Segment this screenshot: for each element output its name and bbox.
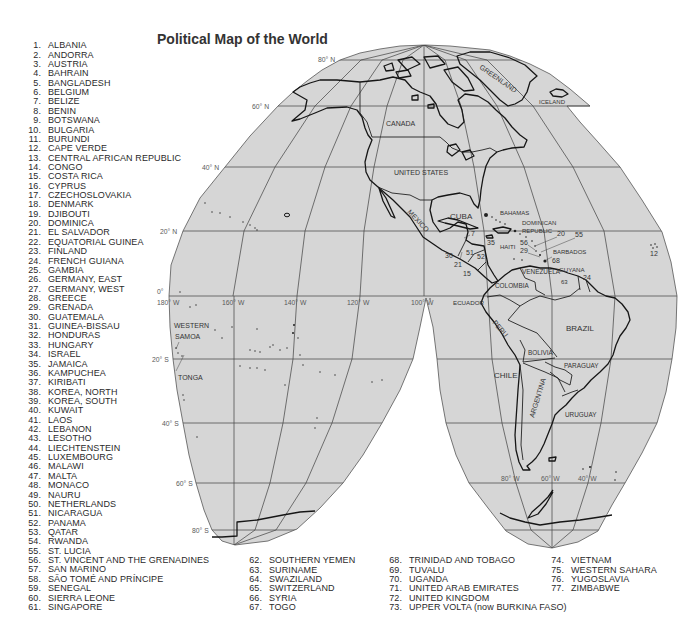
legend-item: 77.ZIMBABWE xyxy=(550,584,657,593)
label-paraguay: PARAGUAY xyxy=(564,362,599,369)
label-dominican-republic-2: REPUBLIC xyxy=(522,228,553,234)
label-number-68: 68 xyxy=(552,257,560,264)
legend-country-name: TOGO xyxy=(269,603,296,612)
label-cuba: CUBA xyxy=(450,212,473,221)
label-number-52: 52 xyxy=(477,253,485,260)
label-chile: CHILE xyxy=(494,371,518,380)
label-number-51: 51 xyxy=(466,249,474,256)
label-number-30: 30 xyxy=(445,252,453,259)
label-colombia: COLOMBIA xyxy=(495,282,529,289)
label-brazil: BRAZIL xyxy=(566,324,595,333)
label-number-7: 7 xyxy=(471,230,475,237)
label-lon-100w: 100° W xyxy=(411,299,434,306)
legend-column-3: 68.TRINIDAD AND TOBAGO69.TUVALU70.UGANDA… xyxy=(388,556,567,612)
label-guyana: GUYANA xyxy=(559,266,586,273)
label-number-20: 20 xyxy=(557,230,565,237)
label-uruguay: URUGUAY xyxy=(565,411,597,418)
label-lon-140w: 140° W xyxy=(284,299,307,306)
label-barbados: BARBADOS xyxy=(553,249,586,255)
legend-item: 67.TOGO xyxy=(248,603,355,612)
legend-country-name: UPPER VOLTA (now BURKINA FASO) xyxy=(409,603,567,612)
legend-number: 67. xyxy=(248,603,262,612)
legend-country-name: SINGAPORE xyxy=(48,603,102,612)
legend-item: 61.SINGAPORE xyxy=(27,603,209,612)
label-canada: CANADA xyxy=(386,120,416,127)
label-number-12: 12 xyxy=(650,250,658,257)
legend-item: 73.UPPER VOLTA (now BURKINA FASO) xyxy=(388,603,567,612)
label-number-63: 63 xyxy=(561,279,568,285)
label-iceland: ICELAND xyxy=(539,99,566,105)
legend-item: 65.SWITZERLAND xyxy=(248,584,355,593)
legend-column-2: 62.SOUTHERN YEMEN63.SURINAME64.SWAZILAND… xyxy=(248,556,355,612)
label-lon-160w: 160° W xyxy=(222,299,245,306)
label-number-56: 56 xyxy=(520,239,528,246)
label-number-15: 15 xyxy=(463,270,471,277)
legend-number: 61. xyxy=(27,603,41,612)
legend-column-4: 74.VIETNAM75.WESTERN SAHARA76.YUGOSLAVIA… xyxy=(550,556,657,593)
label-bolivia: BOLIVIA xyxy=(528,349,554,356)
legend-number: 77. xyxy=(550,584,564,593)
label-lat-80n: 80° N xyxy=(318,56,335,63)
label-dominican-republic-1: DOMINICAN xyxy=(522,220,556,226)
label-haiti: HAITI xyxy=(500,244,516,250)
legend-item: 66.SYRIA xyxy=(248,594,355,603)
label-lon-80w: 80° W xyxy=(501,475,520,482)
label-ecuador: ECUADOR xyxy=(453,299,484,306)
label-number-24: 24 xyxy=(583,274,591,281)
legend-column-1: 1.ALBANIA2.ANDORRA3.AUSTRIA4.BAHRAIN5.BA… xyxy=(27,41,209,612)
label-number-29: 29 xyxy=(520,247,528,254)
label-lat-60n: 60° N xyxy=(252,103,269,110)
legend-number: 73. xyxy=(388,603,402,612)
label-lon-120w: 120° W xyxy=(347,299,370,306)
label-number-55: 55 xyxy=(575,231,583,238)
label-number-21: 21 xyxy=(454,261,462,268)
label-number-35: 35 xyxy=(487,239,495,246)
legend-country-name: ZIMBABWE xyxy=(571,584,620,593)
label-united-states: UNITED STATES xyxy=(394,169,449,176)
map-page: 80° N 60° N 40° N 20° N 0° 20° S 40° S 6… xyxy=(0,0,700,641)
label-lon-40w: 40° W xyxy=(578,475,597,482)
label-lon-60w: 60° W xyxy=(541,475,560,482)
map-lobes xyxy=(169,45,677,548)
label-bahamas: BAHAMAS xyxy=(500,210,529,216)
label-venezuela: VENEZUELA xyxy=(522,268,561,275)
